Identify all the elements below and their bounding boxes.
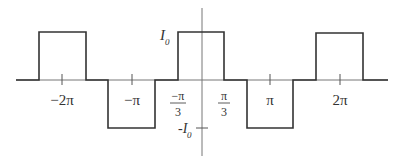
label-minus-pi-over-3: −π 3 (170, 89, 186, 119)
square-wave-diagram: −2π −π π 2π −π 3 π 3 I 0 -I 0 (0, 0, 399, 163)
svg-text:3: 3 (175, 105, 181, 119)
label-minus-2pi: −2π (50, 92, 74, 108)
svg-text:0: 0 (165, 37, 170, 47)
svg-text:π: π (221, 89, 227, 103)
label-minus-pi: −π (124, 92, 140, 108)
label-i0: I 0 (159, 27, 170, 47)
svg-text:3: 3 (221, 105, 227, 119)
label-2pi: 2π (332, 92, 348, 108)
svg-text:0: 0 (187, 130, 192, 140)
label-pi-over-3: π 3 (218, 89, 230, 119)
svg-text:−π: −π (172, 89, 185, 103)
label-pi: π (266, 92, 274, 108)
label-minus-i0: -I 0 (178, 121, 192, 140)
